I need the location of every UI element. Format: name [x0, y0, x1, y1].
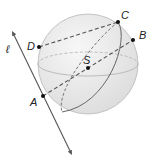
- point-A: [41, 94, 45, 98]
- point-D: [37, 45, 41, 49]
- label-l: ℓ: [5, 43, 10, 55]
- point-C: [116, 20, 120, 24]
- point-S: [86, 66, 90, 70]
- label-D: D: [27, 40, 35, 52]
- sphere-diagram: ℓ D C B A S: [0, 0, 156, 157]
- label-B: B: [139, 29, 146, 41]
- label-C: C: [121, 9, 129, 21]
- label-S: S: [83, 54, 91, 66]
- point-B: [131, 38, 135, 42]
- label-A: A: [29, 96, 37, 108]
